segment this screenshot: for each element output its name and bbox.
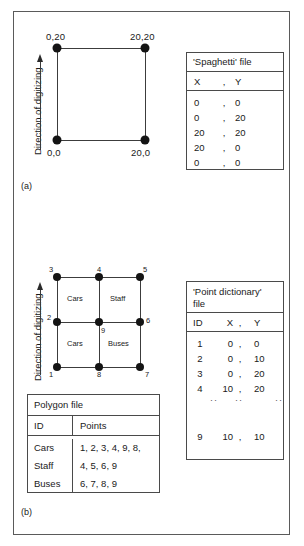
spaghetti-cell-x: 0 <box>187 112 217 123</box>
polygon-table-title: Polygon file <box>28 399 83 411</box>
point-dictionary-ellipsis-x: : <box>223 399 243 402</box>
point-dictionary-row: 4 10 , 20 <box>187 381 283 396</box>
spaghetti-cell-y: 0 <box>231 142 261 153</box>
point-dictionary-cell-id: 9 <box>187 431 213 442</box>
point-dictionary-cell-id: 4 <box>187 383 213 394</box>
panel-a-label: (a) <box>21 181 32 191</box>
grid-cell-label-cars-upper: Cars <box>67 294 83 303</box>
spaghetti-cell-x: 0 <box>187 97 217 108</box>
square-right-edge-a <box>145 48 146 140</box>
point-dictionary-header-y: Y <box>247 317 273 328</box>
polygon-table-row: Staff 4, 5, 6, 9 <box>28 457 159 475</box>
polygon-header-id: ID <box>28 416 73 436</box>
point-dictionary-header-x: X <box>213 317 233 328</box>
point-dictionary-row: 3 0 , 20 <box>187 366 283 381</box>
point-dictionary-ellipsis-id: : <box>192 399 218 402</box>
square-vertex-bottom-left-a <box>53 136 62 145</box>
point-dictionary-cell-comma: , <box>233 368 247 379</box>
point-dictionary-cell-id: 1 <box>187 338 213 349</box>
point-dictionary-cell-comma: , <box>233 431 247 442</box>
grid-cell-label-buses: Buses <box>108 339 129 348</box>
square-top-edge-a <box>57 48 145 49</box>
grid-node-label-3: 3 <box>49 265 53 274</box>
point-dictionary-cell-y: 20 <box>247 368 273 379</box>
grid-node-7 <box>136 363 144 371</box>
spaghetti-cell-y: 20 <box>231 127 261 138</box>
digitizing-arrow-shaft-b <box>40 290 41 375</box>
figure-root: Direction of digitizing 0,20 20,20 0,0 2… <box>0 0 304 546</box>
polygon-table-row: Buses 6, 7, 8, 9 <box>28 475 159 493</box>
spaghetti-cell-comma: , <box>217 112 231 123</box>
point-dictionary-cell-id: 2 <box>187 353 213 364</box>
spaghetti-cell-comma: , <box>217 142 231 153</box>
grid-node-label-7: 7 <box>145 370 149 379</box>
spaghetti-cell-comma: , <box>217 127 231 138</box>
spaghetti-table-title: 'Spaghetti' file <box>187 56 252 68</box>
digitizing-arrow-shaft-a <box>40 62 41 150</box>
point-dictionary-row: 2 0 , 10 <box>187 351 283 366</box>
grid-node-label-6: 6 <box>146 316 150 325</box>
point-dictionary-ellipsis-y: : <box>257 399 283 402</box>
point-dictionary-header-row: ID X , Y <box>187 313 283 332</box>
spaghetti-cell-x: 20 <box>187 127 217 138</box>
polygon-cell-id: Cars <box>28 439 73 457</box>
square-bottom-edge-a <box>57 140 145 141</box>
grid-cell-label-cars-lower: Cars <box>67 339 83 348</box>
spaghetti-cell-y: 0 <box>231 97 261 108</box>
polygon-cell-id: Buses <box>28 475 73 493</box>
grid-node-5 <box>136 273 144 281</box>
point-dictionary-cell-comma: , <box>233 338 247 349</box>
polygon-file-table: Polygon file ID Points Cars 1, 2, 3, 4, … <box>27 394 160 493</box>
polygon-header-points: Points <box>73 416 159 436</box>
spaghetti-header-y: Y <box>231 76 261 87</box>
grid-node-label-4: 4 <box>97 265 101 274</box>
polygon-table-title-row: Polygon file <box>28 395 159 416</box>
point-dictionary-row: 1 0 , 0 <box>187 336 283 351</box>
point-dictionary-header-comma: , <box>233 317 247 328</box>
spaghetti-cell-x: 20 <box>187 142 217 153</box>
point-dictionary-header-id: ID <box>187 317 213 328</box>
grid-node-9 <box>95 318 103 326</box>
point-dictionary-cell-x: 10 <box>213 431 233 442</box>
point-dictionary-cell-comma: , <box>233 353 247 364</box>
grid-node-label-1: 1 <box>49 370 53 379</box>
point-dictionary-cell-id: 3 <box>187 368 213 379</box>
grid-node-label-8: 8 <box>97 370 101 379</box>
grid-node-6 <box>136 318 144 326</box>
polygon-cell-points: 4, 5, 6, 9 <box>73 457 159 475</box>
spaghetti-table-row: 20 , 20 <box>187 125 283 140</box>
spaghetti-cell-comma: , <box>217 157 231 168</box>
grid-node-2 <box>53 318 61 326</box>
grid-node-label-2: 2 <box>47 313 51 322</box>
panel-b-label: (b) <box>21 507 32 517</box>
point-dictionary-cell-y: 0 <box>247 338 273 349</box>
polygon-table-row: Cars 1, 2, 3, 4, 9, 8, <box>28 439 159 457</box>
point-dictionary-table: 'Point dictionary' file ID X , Y 1 0 , 0… <box>186 281 284 460</box>
point-dictionary-row-last: 9 10 , 10 <box>187 429 283 444</box>
point-dictionary-cell-y: 20 <box>247 383 273 394</box>
grid-node-4 <box>95 273 103 281</box>
point-dictionary-title-line1: 'Point dictionary' <box>187 286 283 298</box>
square-vertex-bottom-right-a <box>141 136 150 145</box>
point-dictionary-cell-x: 0 <box>213 338 233 349</box>
spaghetti-file-table: 'Spaghetti' file X , Y 0 , 0 0 , 20 20 ,… <box>186 52 284 170</box>
spaghetti-table-row: 0 , 0 <box>187 155 283 170</box>
spaghetti-table-header-row: X , Y <box>187 72 283 91</box>
spaghetti-cell-y: 20 <box>231 112 261 123</box>
point-dictionary-ellipsis-row: : : : <box>187 399 283 427</box>
point-dictionary-cell-y: 10 <box>247 431 273 442</box>
point-dictionary-title-row: 'Point dictionary' file <box>187 282 283 313</box>
spaghetti-cell-x: 0 <box>187 157 217 168</box>
spaghetti-cell-comma: , <box>217 97 231 108</box>
direction-of-digitizing-label-a: Direction of digitizing <box>32 67 43 155</box>
vertex-coordinate-bottom-right-a: 20,0 <box>131 147 150 158</box>
grid-node-3 <box>53 273 61 281</box>
point-dictionary-cell-comma: , <box>233 383 247 394</box>
square-vertex-top-right-a <box>141 44 150 53</box>
square-vertex-top-left-a <box>53 44 62 53</box>
polygon-table-header-row: ID Points <box>28 416 159 436</box>
point-dictionary-cell-x: 10 <box>213 383 233 394</box>
grid-node-label-9: 9 <box>101 326 105 335</box>
spaghetti-table-title-row: 'Spaghetti' file <box>187 53 283 72</box>
point-dictionary-cell-x: 0 <box>213 353 233 364</box>
